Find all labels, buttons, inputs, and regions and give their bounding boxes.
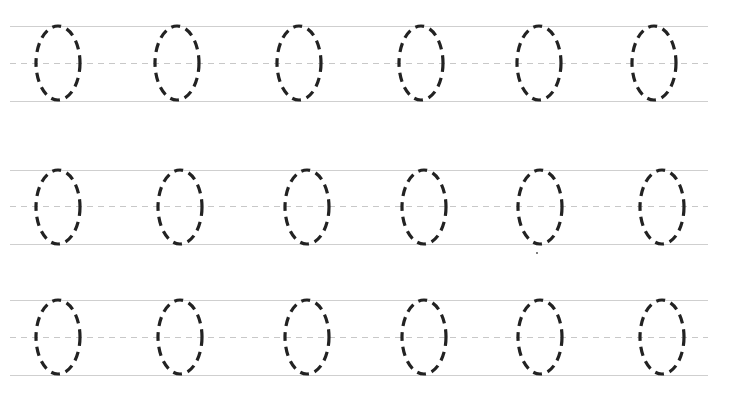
tracing-worksheet — [0, 0, 738, 396]
practice-row-3 — [10, 300, 708, 376]
practice-row-1 — [10, 26, 708, 102]
stray-ink-dot — [536, 252, 538, 254]
worksheet-canvas — [0, 0, 738, 396]
practice-row-2 — [10, 170, 708, 245]
